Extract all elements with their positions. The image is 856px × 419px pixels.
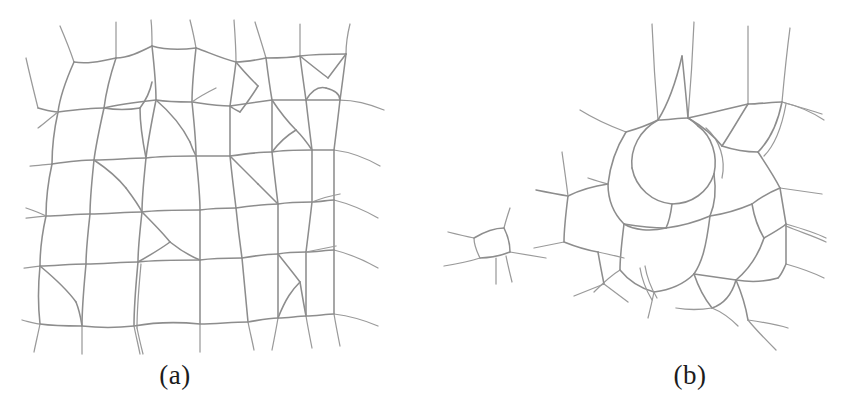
panel-b-foam-network [430,0,856,360]
figure-root: (a) (b) [0,0,856,419]
panel-b-cell-walls [444,22,826,350]
panel-a-svg [0,0,420,360]
panel-a-foam-network [0,0,420,360]
panel-b-svg [430,0,856,360]
panel-a-label: (a) [95,362,255,389]
panel-a-cell-walls [22,20,384,354]
panel-b-label: (b) [610,362,770,389]
